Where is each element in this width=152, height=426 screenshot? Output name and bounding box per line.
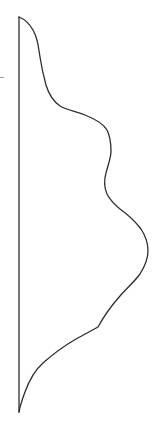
profile-curve [19,17,148,412]
figure-canvas [0,0,152,426]
profile-drawing [0,0,152,426]
